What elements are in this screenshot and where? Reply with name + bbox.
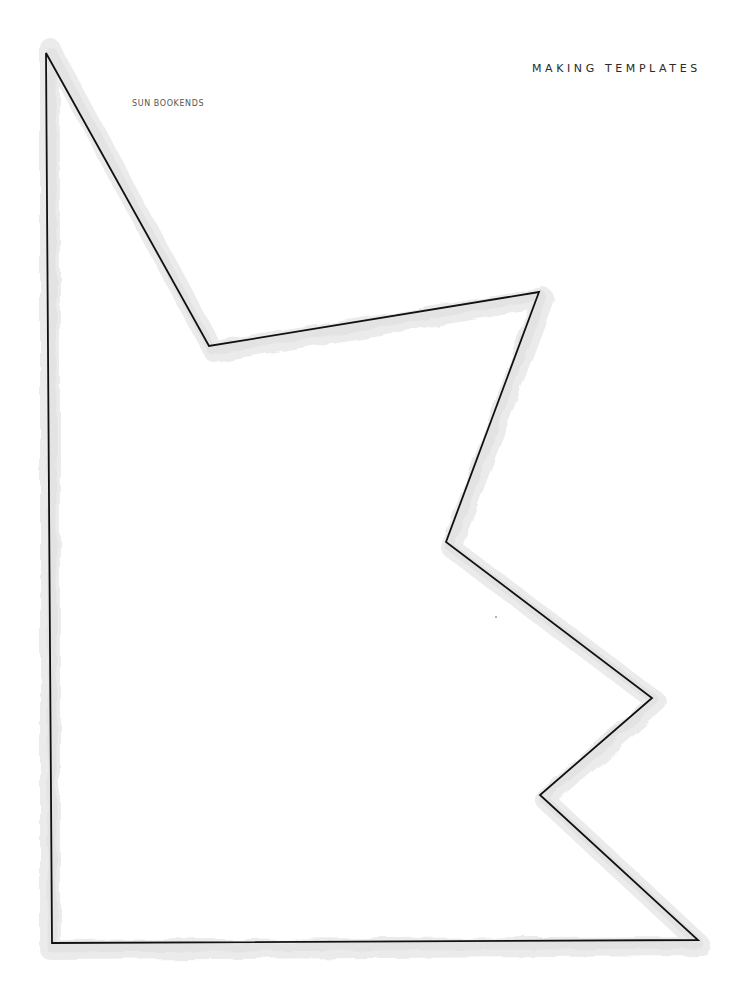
template-shadow-inner xyxy=(52,52,700,948)
template-shadow xyxy=(50,48,702,950)
speck xyxy=(495,616,497,618)
template-outline xyxy=(46,53,698,943)
sun-bookend-template-shape xyxy=(0,0,748,981)
